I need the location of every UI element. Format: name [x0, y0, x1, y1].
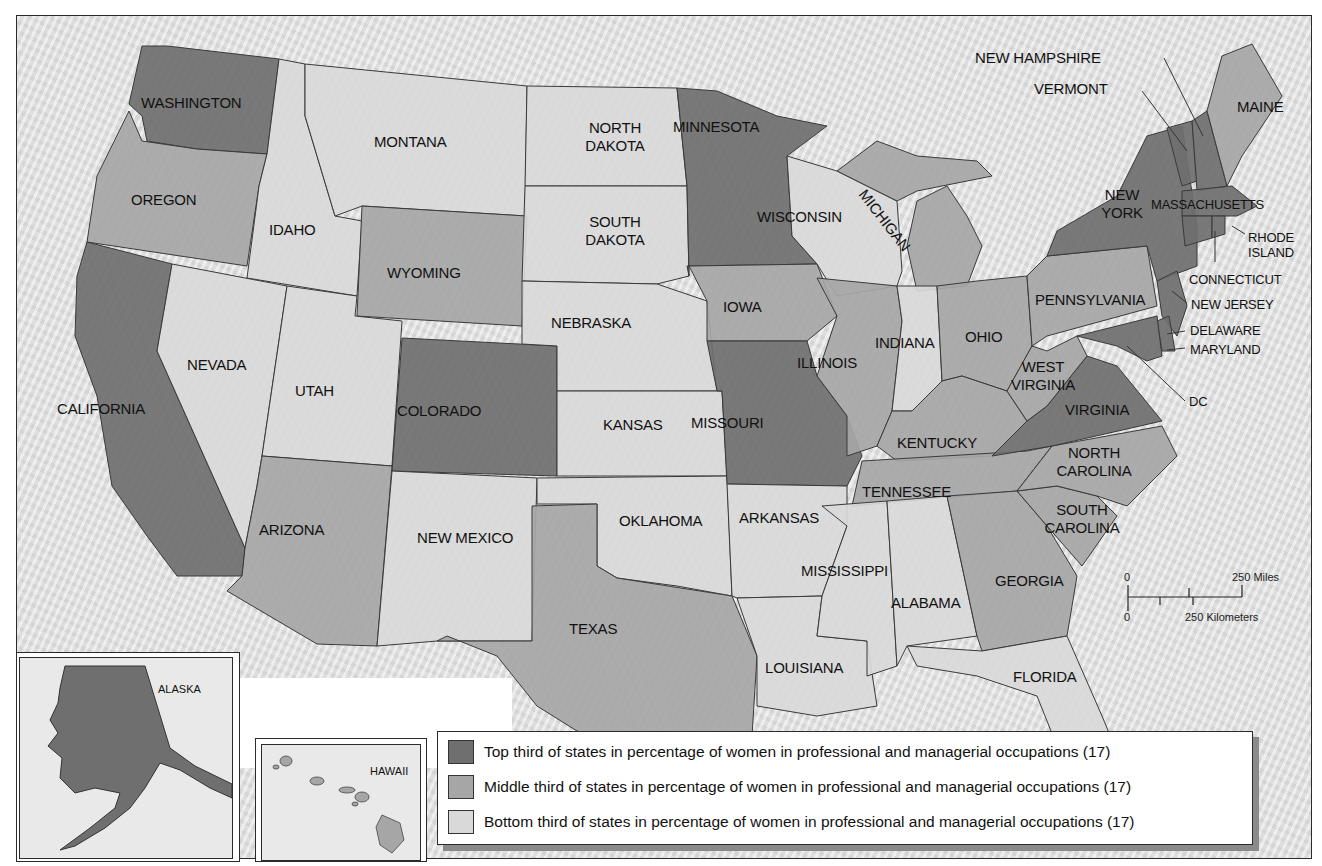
label-connecticut: CONNECTICUT: [1189, 271, 1281, 289]
hawaii-label: HAWAII: [370, 765, 408, 777]
state-rhode-island: [1212, 216, 1225, 238]
label-arizona: ARIZONA: [259, 521, 324, 539]
hawaii-inset: HAWAII: [255, 738, 427, 862]
legend-item-middle: Middle third of states in percentage of …: [448, 774, 1131, 800]
label-virginia: VIRGINIA: [1065, 401, 1129, 419]
label-nevada: NEVADA: [187, 356, 246, 374]
label-kansas: KANSAS: [603, 416, 663, 434]
scale-km-label: 250 Kilometers: [1185, 611, 1258, 623]
legend-swatch-bottom: [448, 810, 474, 834]
label-tennessee: TENNESSEE: [862, 483, 951, 501]
label-vermont: VERMONT: [1034, 80, 1108, 98]
scale-miles-label: 250 Miles: [1232, 571, 1279, 583]
legend-label-top: Top third of states in percentage of wom…: [484, 743, 1110, 761]
scale-km-zero: 0: [1124, 611, 1130, 623]
label-texas: TEXAS: [569, 620, 617, 638]
label-nebraska: NEBRASKA: [551, 314, 631, 332]
label-new-hampshire: NEW HAMPSHIRE: [975, 49, 1101, 67]
label-washington: WASHINGTON: [141, 94, 242, 112]
label-pennsylvania: PENNSYLVANIA: [1035, 291, 1145, 309]
label-new-jersey: NEW JERSEY: [1191, 296, 1274, 314]
label-maryland: MARYLAND: [1190, 341, 1260, 359]
label-delaware: DELAWARE: [1190, 322, 1260, 340]
label-iowa: IOWA: [723, 298, 762, 316]
state-new-mexico: [377, 471, 537, 646]
label-georgia: GEORGIA: [995, 572, 1064, 590]
label-south-dakota: SOUTH DAKOTA: [575, 213, 655, 249]
legend-swatch-top: [448, 740, 474, 764]
label-california: CALIFORNIA: [57, 400, 145, 418]
legend: Top third of states in percentage of wom…: [437, 731, 1253, 845]
label-florida: FLORIDA: [1013, 668, 1077, 686]
label-utah: UTAH: [295, 382, 334, 400]
label-arkansas: ARKANSAS: [739, 509, 819, 527]
label-west-virginia: WEST VIRGINIA: [1001, 358, 1085, 394]
label-wisconsin: WISCONSIN: [757, 208, 842, 226]
label-idaho: IDAHO: [269, 221, 316, 239]
label-louisiana: LOUISIANA: [765, 659, 843, 677]
label-north-dakota: NORTH DAKOTA: [575, 119, 655, 155]
label-south-carolina: SOUTH CAROLINA: [1037, 501, 1127, 537]
label-oregon: OREGON: [131, 191, 196, 209]
label-mississippi: MISSISSIPPI: [801, 562, 888, 580]
scale-bar: 0 250 Miles 0 250 Kilometers: [1118, 571, 1288, 626]
legend-label-middle: Middle third of states in percentage of …: [484, 778, 1131, 796]
label-oklahoma: OKLAHOMA: [619, 512, 702, 530]
legend-swatch-middle: [448, 775, 474, 799]
label-dc: DC: [1189, 393, 1207, 411]
label-missouri: MISSOURI: [691, 414, 764, 432]
label-new-mexico: NEW MEXICO: [417, 529, 487, 547]
state-connecticut: [1182, 216, 1212, 246]
label-massachusetts: MASSACHUSETTS: [1151, 196, 1264, 214]
alaska-label: ALASKA: [158, 683, 201, 695]
label-alabama: ALABAMA: [891, 594, 960, 612]
label-north-carolina: NORTH CAROLINA: [1047, 444, 1141, 480]
label-montana: MONTANA: [374, 133, 447, 151]
label-maine: MAINE: [1237, 98, 1284, 116]
state-michigan-lower: [907, 186, 982, 291]
scale-miles-zero: 0: [1124, 571, 1130, 583]
label-indiana: INDIANA: [875, 334, 934, 352]
label-kentucky: KENTUCKY: [897, 434, 977, 452]
label-minnesota: MINNESOTA: [673, 118, 759, 136]
label-colorado: COLORADO: [397, 402, 481, 420]
label-wyoming: WYOMING: [387, 264, 461, 282]
legend-item-bottom: Bottom third of states in percentage of …: [448, 809, 1135, 835]
label-illinois: ILLINOIS: [797, 354, 857, 372]
label-rhode-island: RHODE ISLAND: [1246, 230, 1296, 260]
label-new-york: NEW YORK: [1097, 186, 1147, 222]
label-ohio: OHIO: [965, 328, 1003, 346]
alaska-inset: ALASKA: [16, 652, 240, 862]
legend-label-bottom: Bottom third of states in percentage of …: [484, 813, 1135, 831]
legend-item-top: Top third of states in percentage of wom…: [448, 739, 1110, 765]
hawaii-islands: [262, 745, 420, 860]
state-iowa: [689, 264, 837, 341]
